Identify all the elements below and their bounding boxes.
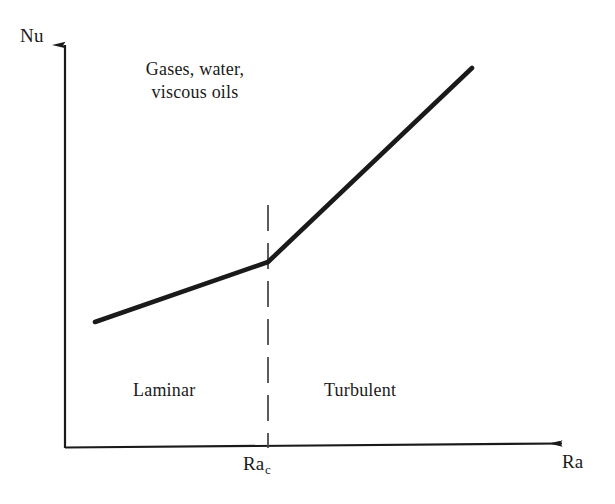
figure-canvas: [0, 0, 615, 504]
fluids-annotation: Gases, water,viscous oils: [115, 58, 275, 104]
convection-nu-ra-figure: Nu Ra Rac Gases, water,viscous oils Lami…: [0, 0, 615, 504]
region-label-laminar: Laminar: [133, 379, 195, 402]
region-label-turbulent: Turbulent: [324, 379, 396, 402]
critical-rayleigh-tick-label: Rac: [243, 452, 271, 479]
fluids-annotation-line-1: Gases, water,: [146, 59, 244, 79]
x-axis-line: [65, 444, 562, 448]
x-axis-label: Ra: [562, 450, 584, 474]
tick-label-subscript: c: [265, 462, 271, 477]
tick-label-base: Ra: [243, 453, 265, 474]
nusselt-rayleigh-curve: [95, 68, 472, 322]
y-axis-label: Nu: [20, 24, 44, 48]
fluids-annotation-line-2: viscous oils: [115, 81, 275, 104]
